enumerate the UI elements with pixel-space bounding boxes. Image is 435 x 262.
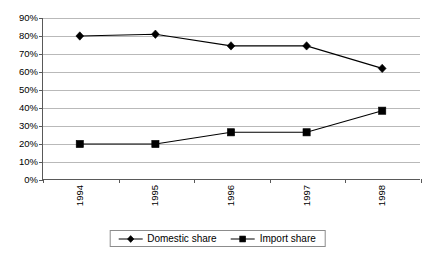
data-point-marker-diamond [152, 30, 160, 38]
x-axis-labels: 19941995199619971998 [42, 185, 420, 223]
legend-key-square [230, 233, 256, 245]
x-axis-tick-label-slot: 1997 [300, 185, 314, 223]
y-axis-labels: 0%10%20%30%40%50%60%70%80%90% [0, 18, 38, 180]
legend-label: Domestic share [147, 234, 216, 244]
y-axis-tick-label: 80% [19, 31, 38, 41]
x-axis-tick-label-slot: 1996 [224, 185, 238, 223]
y-axis-tick-label: 20% [19, 139, 38, 149]
y-axis-tick-label: 90% [19, 13, 38, 23]
y-axis-tick-label: 70% [19, 49, 38, 59]
data-point-marker-diamond [76, 32, 84, 40]
x-axis-tick-label: 1997 [302, 185, 312, 206]
series-line-import-share [80, 111, 382, 144]
data-point-marker-square [303, 129, 310, 136]
y-axis-tick-label: 40% [19, 103, 38, 113]
y-axis-tick-label: 50% [19, 85, 38, 95]
x-tick-5 [421, 179, 422, 183]
chart-legend: Domestic shareImport share [109, 230, 326, 247]
x-axis-tick-label: 1995 [151, 185, 161, 206]
series-layer [42, 18, 420, 180]
data-point-marker-square [240, 236, 246, 242]
legend-entry-import-share[interactable]: Import share [230, 233, 316, 245]
y-axis-tick-label: 60% [19, 67, 38, 77]
line-chart: 0%10%20%30%40%50%60%70%80%90% 1994199519… [0, 0, 435, 262]
data-point-marker-diamond [303, 42, 311, 50]
data-point-marker-square [227, 129, 234, 136]
y-axis-tick-label: 0% [24, 175, 38, 185]
y-axis-tick-label: 10% [19, 157, 38, 167]
data-point-marker-square [379, 107, 386, 114]
x-axis-tick-label: 1994 [75, 185, 85, 206]
data-point-marker-square [152, 140, 159, 147]
legend-entry-domestic-share[interactable]: Domestic share [117, 233, 216, 245]
legend-label: Import share [260, 234, 316, 244]
y-axis-tick-label: 30% [19, 121, 38, 131]
data-point-marker-diamond [378, 64, 386, 72]
data-point-marker-diamond [227, 42, 235, 50]
x-axis-tick-label-slot: 1995 [148, 185, 162, 223]
x-axis-tick-label-slot: 1994 [73, 185, 87, 223]
x-axis-tick-label: 1996 [226, 185, 236, 206]
series-line-domestic-share [80, 34, 382, 68]
x-axis-tick-label-slot: 1998 [375, 185, 389, 223]
data-point-marker-diamond [127, 235, 133, 242]
x-axis-tick-label: 1998 [377, 185, 387, 206]
legend-key-diamond [117, 233, 143, 245]
data-point-marker-square [76, 140, 83, 147]
